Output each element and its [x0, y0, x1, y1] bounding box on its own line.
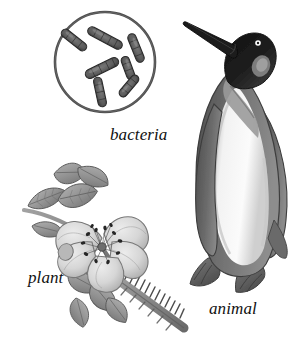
penguin-head [225, 33, 277, 89]
caption-bacteria: bacteria [110, 125, 167, 145]
biology-figure: bacteria plant animal [0, 0, 308, 341]
plant-illustration [6, 148, 196, 334]
caption-plant: plant [28, 268, 63, 288]
penguin-beak [183, 22, 237, 59]
caption-animal: animal [209, 299, 257, 319]
bacteria-illustration [44, 6, 166, 124]
animal-illustration [178, 8, 306, 296]
